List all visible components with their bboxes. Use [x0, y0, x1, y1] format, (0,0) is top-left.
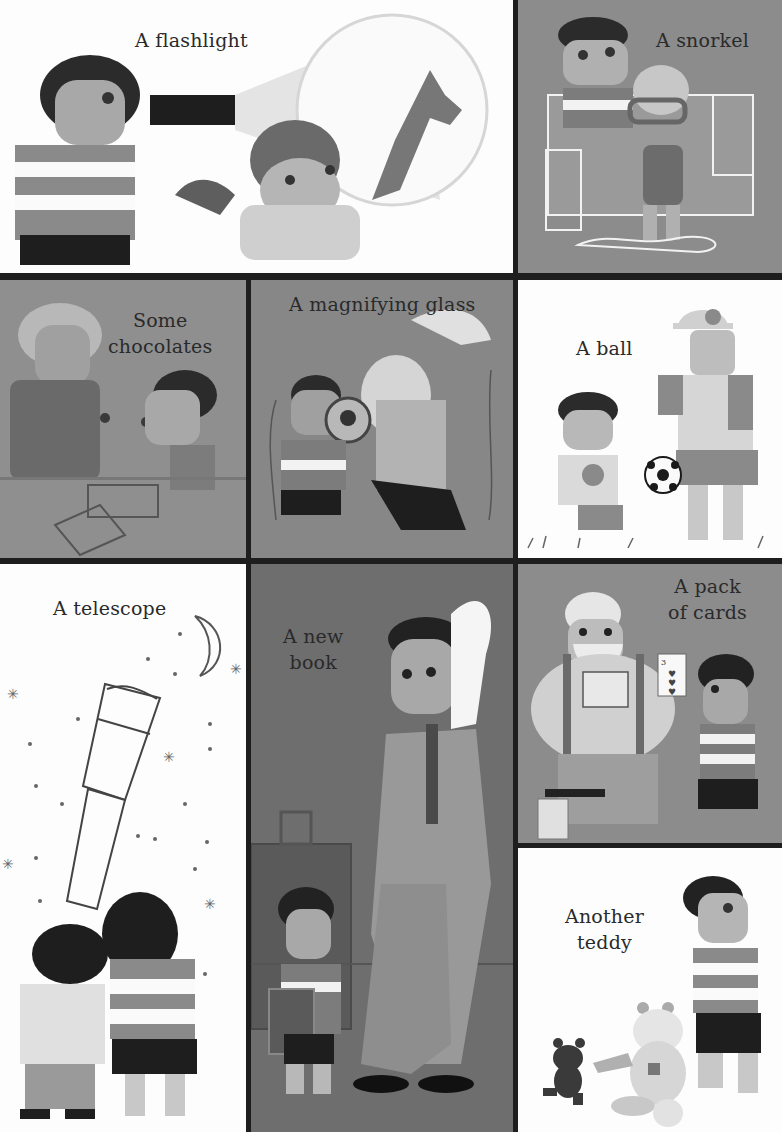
- caption-magnifying-glass: A magnifying glass: [289, 292, 476, 318]
- chocolate-icon: [100, 413, 110, 423]
- svg-text:✳: ✳: [7, 686, 19, 702]
- panel-chocolates: Some chocolates: [0, 280, 246, 558]
- chocolate-box-icon: [88, 485, 158, 517]
- grandma-dress: [10, 380, 100, 480]
- telescope-icon: [67, 684, 160, 909]
- small-teddy-bear-icon: [543, 1038, 585, 1105]
- telescope-illustration: ✳ ✳ ✳ ✳ ✳: [0, 564, 246, 1132]
- panel-telescope: ✳ ✳ ✳ ✳ ✳ A telescope: [0, 564, 246, 1132]
- stool: [545, 789, 605, 797]
- panel-teddy: Another teddy: [518, 848, 782, 1132]
- svg-text:♥: ♥: [668, 687, 676, 697]
- svg-text:✳: ✳: [230, 661, 242, 677]
- panel-new-book: A new book: [251, 564, 513, 1132]
- svg-text:✳: ✳: [204, 896, 216, 912]
- svg-text:3: 3: [661, 658, 666, 667]
- flashlight-illustration: [0, 0, 513, 273]
- caption-flashlight: A flashlight: [135, 28, 248, 54]
- teddy-bear-icon: [593, 1002, 686, 1127]
- caption-telescope: A telescope: [53, 596, 166, 622]
- necktie: [426, 724, 438, 824]
- panel-magnifying-glass: A magnifying glass: [251, 280, 513, 558]
- magnifying-glass-illustration: [251, 280, 513, 558]
- caption-ball: A ball: [576, 336, 633, 362]
- ball-illustration: [518, 280, 782, 558]
- caption-chocolates: Some chocolates: [108, 308, 212, 359]
- caption-pack-of-cards: A pack of cards: [668, 574, 747, 625]
- moon-icon: [195, 616, 220, 676]
- svg-text:✳: ✳: [163, 749, 175, 765]
- panel-snorkel: A snorkel: [518, 0, 782, 273]
- teddy-illustration: [518, 848, 782, 1132]
- panel-flashlight: A flashlight: [0, 0, 513, 273]
- panel-ball: A ball: [518, 280, 782, 558]
- caption-snorkel: A snorkel: [656, 28, 749, 54]
- caption-teddy: Another teddy: [565, 904, 644, 955]
- caption-new-book: A new book: [283, 624, 344, 675]
- picture-frame-icon: [281, 812, 311, 844]
- svg-text:✳: ✳: [2, 856, 14, 872]
- flashlight-icon: [150, 95, 235, 125]
- panel-pack-of-cards: 3 ♥ ♥ ♥ A pack of cards: [518, 564, 782, 843]
